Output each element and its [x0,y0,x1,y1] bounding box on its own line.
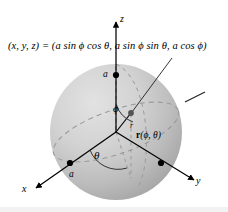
equator-outer-tick [185,92,205,102]
parametrization-equation: (x, y, z) = (a sin ϕ cos θ, a sin ϕ sin … [8,41,207,52]
figure-bottom-edge [0,207,228,212]
z-axis-label: z [120,14,124,24]
x-axis-label: x [22,184,26,194]
position-vector-arguments: (ϕ, θ) [140,130,161,140]
point-on-sphere-dot [128,110,134,116]
radius-marker-dot-y [158,160,164,166]
y-axis-label: y [196,176,200,186]
phi-angle-label: ϕ [113,103,119,114]
position-vector-label: r(ϕ, θ) [136,131,161,141]
radius-marker-dot-z [113,72,119,78]
theta-angle-label: θ [94,150,99,161]
radius-marker-dot-x [67,160,73,166]
spherical-coordinates-figure: (x, y, z) = (a sin ϕ cos θ, a sin ϕ sin … [0,0,228,212]
radius-magnitude-label: r [130,122,133,130]
radius-label-x: a [69,170,74,180]
radius-label-z: a [103,70,108,80]
